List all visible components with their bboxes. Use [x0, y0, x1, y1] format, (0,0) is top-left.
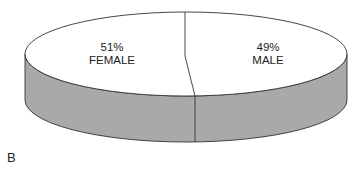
male-name-label: MALE: [252, 54, 284, 66]
pie-chart: 51% FEMALE 49% MALE: [0, 0, 364, 172]
male-percent-label: 49%: [256, 41, 279, 53]
panel-letter: B: [7, 150, 16, 165]
female-percent-label: 51%: [100, 41, 123, 53]
pie-top-face: [25, 12, 347, 96]
female-name-label: FEMALE: [89, 54, 135, 66]
